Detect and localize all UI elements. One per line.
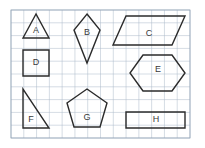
shape-label-g: G <box>83 112 90 122</box>
shape-f-triangle-right[interactable] <box>23 89 49 128</box>
geometry-worksheet: ABCDEFGH <box>0 0 205 148</box>
shape-label-d: D <box>33 57 40 67</box>
shapes-layer: ABCDEFGH <box>23 14 185 128</box>
shape-label-c: C <box>146 28 153 38</box>
shape-b-kite[interactable] <box>74 14 100 63</box>
shape-label-e: E <box>155 64 161 74</box>
shapes-grid-canvas: ABCDEFGH <box>0 0 205 148</box>
shape-label-a: A <box>33 25 39 35</box>
shape-label-h: H <box>153 114 160 124</box>
shape-label-b: B <box>84 27 90 37</box>
shape-label-f: F <box>28 114 34 124</box>
